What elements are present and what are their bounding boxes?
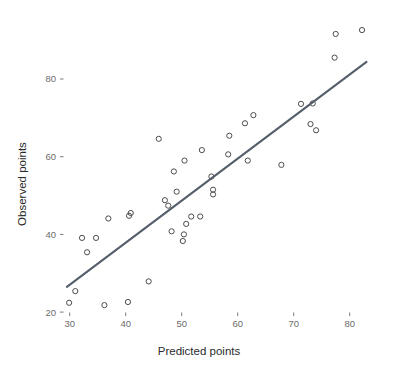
- x-tick-label: 60: [232, 318, 243, 329]
- x-tick-label: 50: [176, 318, 187, 329]
- x-tick-label: 40: [120, 318, 131, 329]
- y-tick-label: 80: [45, 73, 56, 84]
- plot-background: [0, 0, 398, 367]
- x-axis-title: Predicted points: [158, 345, 241, 357]
- x-tick-label: 80: [344, 318, 355, 329]
- x-tick-label: 30: [64, 318, 75, 329]
- scatter-plot-figure: 20406080 304050607080 Predicted points O…: [0, 0, 398, 367]
- y-tick-label: 20: [45, 307, 56, 318]
- x-tick-label: 70: [288, 318, 299, 329]
- y-axis-title: Observed points: [16, 142, 28, 226]
- y-tick-label: 40: [45, 229, 56, 240]
- plot-canvas: 20406080 304050607080 Predicted points O…: [0, 0, 398, 367]
- y-tick-label: 60: [45, 151, 56, 162]
